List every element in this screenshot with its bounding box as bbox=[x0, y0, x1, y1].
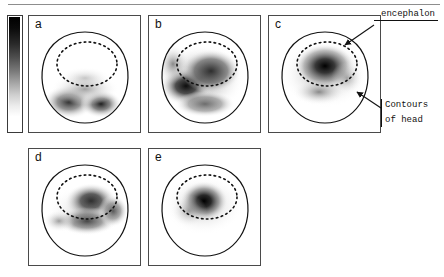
encephalon-label: encephalon bbox=[381, 9, 435, 20]
top-horizontal-rule bbox=[8, 4, 440, 5]
figure-root: a bbox=[0, 0, 444, 277]
panel-d-map bbox=[29, 149, 141, 266]
panel-d: d bbox=[28, 148, 141, 266]
panel-a: a bbox=[28, 15, 141, 133]
grayscale-intensity-colorbar bbox=[7, 15, 23, 133]
panel-c-map bbox=[269, 16, 381, 133]
contours-of-head-label-line1: Contours bbox=[385, 100, 428, 111]
panel-e: e bbox=[148, 148, 261, 266]
contours-of-head-label-line2: of head bbox=[385, 115, 423, 126]
contours-label-leader-bar bbox=[381, 99, 382, 127]
colorbar-gradient bbox=[9, 17, 20, 130]
panel-b: b bbox=[148, 15, 261, 133]
panel-e-map bbox=[149, 149, 261, 266]
encephalon-label-underline bbox=[374, 20, 438, 21]
panel-c: c bbox=[268, 15, 381, 133]
panel-a-map bbox=[29, 16, 141, 133]
panel-b-map bbox=[149, 16, 261, 133]
